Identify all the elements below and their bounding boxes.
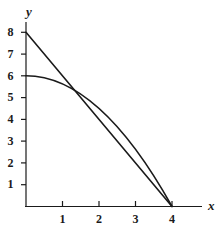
y-tick-marks — [21, 32, 26, 184]
y-tick-label-5: 5 — [4, 91, 17, 103]
y-tick-label-6: 6 — [4, 70, 17, 82]
y-tick-label-1: 1 — [4, 178, 17, 190]
plot-area — [0, 0, 224, 230]
x-tick-label-2: 2 — [93, 213, 106, 225]
y-tick-label-7: 7 — [4, 48, 17, 60]
x-tick-label-3: 3 — [129, 213, 142, 225]
y-tick-label-2: 2 — [4, 157, 17, 169]
x-tick-marks — [63, 201, 173, 207]
y-tick-label-3: 3 — [4, 135, 17, 147]
y-tick-label-8: 8 — [4, 26, 17, 38]
series-upper-line — [26, 32, 172, 206]
chart-figure: 8 7 6 5 4 3 2 1 1 2 3 4 y x — [0, 0, 224, 230]
y-axis-label: y — [26, 5, 32, 18]
x-tick-label-4: 4 — [166, 213, 179, 225]
x-tick-label-1: 1 — [56, 213, 69, 225]
x-axis-label: x — [208, 199, 215, 212]
series-lower-curve — [26, 76, 172, 207]
y-tick-label-4: 4 — [4, 113, 17, 125]
